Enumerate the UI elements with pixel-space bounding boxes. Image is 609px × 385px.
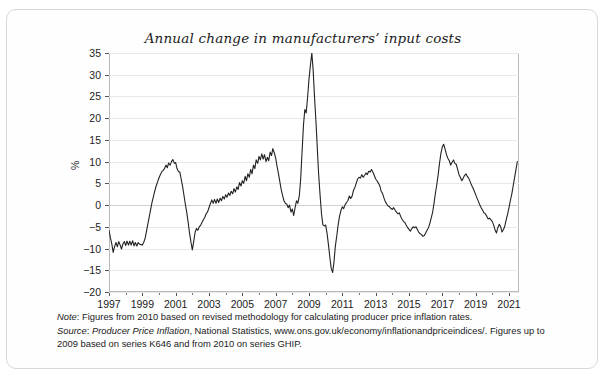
- x-tick-label: 2011: [331, 298, 354, 310]
- note-line: Note: Figures from 2010 based on revised…: [57, 310, 557, 324]
- y-tick-label: 35: [7, 47, 101, 59]
- series-polyline: [109, 53, 517, 272]
- x-tick-label: 2015: [397, 298, 420, 310]
- figure-notes: Note: Figures from 2010 based on revised…: [57, 310, 557, 351]
- source-text-continued: based on series K646 and from 2010 on se…: [80, 338, 301, 349]
- y-tick-label: 5: [7, 177, 101, 189]
- x-tick-label: 2017: [431, 298, 454, 310]
- plot-area: [109, 53, 519, 292]
- source-line: Source: Producer Price Inflation, Nation…: [57, 324, 557, 351]
- x-tick-label: 2005: [231, 298, 254, 310]
- y-tick-label: −15: [7, 264, 101, 276]
- y-tick-label: 10: [7, 156, 101, 168]
- x-tick-label: 1997: [97, 298, 120, 310]
- y-tick-label: −5: [7, 221, 101, 233]
- note-text: : Figures from 2010 based on revised met…: [77, 311, 473, 322]
- y-tick-label: −10: [7, 243, 101, 255]
- source-publication-title: Producer Price Inflation: [92, 325, 189, 336]
- x-tick-label: 2001: [164, 298, 187, 310]
- x-tick-label: 2013: [364, 298, 387, 310]
- y-tick-label: 30: [7, 69, 101, 81]
- x-tick-label: 2007: [264, 298, 287, 310]
- x-tick-label: 1999: [131, 298, 154, 310]
- y-tick-label: 15: [7, 134, 101, 146]
- y-tick-label: 0: [7, 199, 101, 211]
- y-tick-label: 20: [7, 112, 101, 124]
- y-tick-label: 25: [7, 90, 101, 102]
- note-label: Note: [57, 311, 77, 322]
- x-tick-label: 2021: [497, 298, 520, 310]
- gridline: [109, 292, 519, 293]
- x-tick-label: 2019: [464, 298, 487, 310]
- series-line-chart: [109, 53, 519, 292]
- source-label: Source: [57, 325, 87, 336]
- chart-title: Annual change in manufacturers’ input co…: [7, 30, 599, 46]
- y-tick-label: −20: [7, 286, 101, 298]
- x-tick-label: 2003: [197, 298, 220, 310]
- chart-figure-card: Annual change in manufacturers’ input co…: [6, 9, 598, 369]
- x-tick-label: 2009: [297, 298, 320, 310]
